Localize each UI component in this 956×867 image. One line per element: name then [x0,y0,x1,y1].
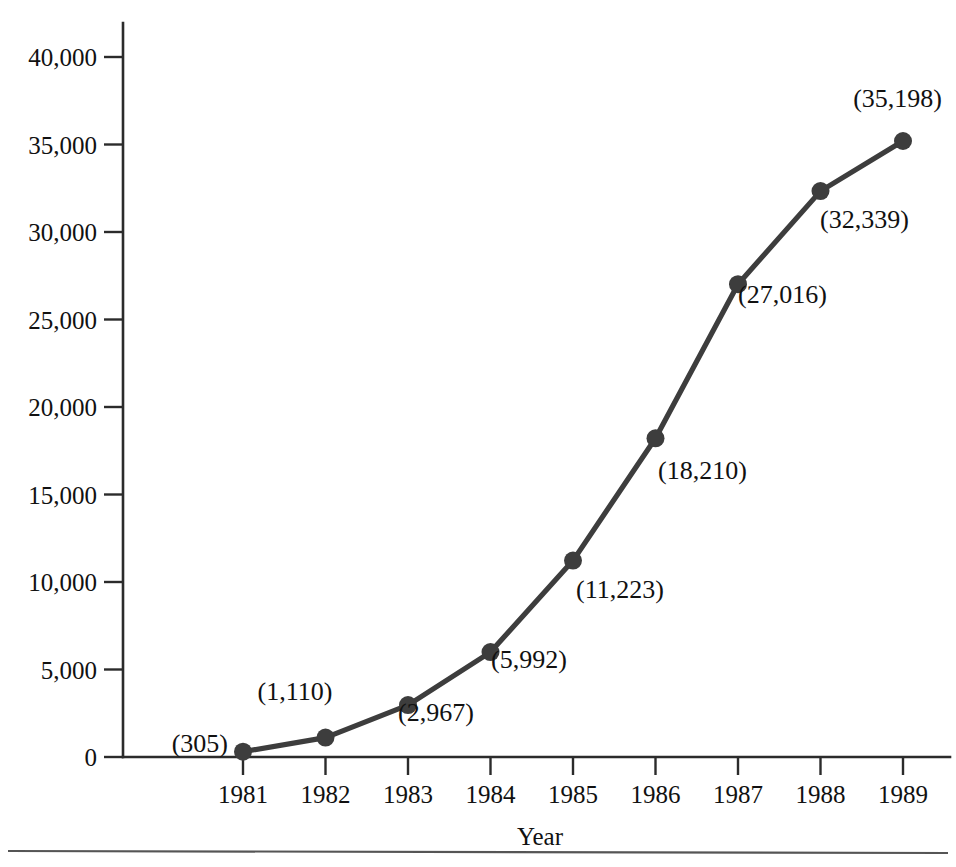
data-label-1983: (2,967) [398,698,474,727]
y-tick-label-30000: 30,000 [28,219,97,246]
y-tick-label-35000: 35,000 [28,132,97,159]
data-point-1988[interactable] [812,182,830,200]
line-chart: 40,000 35,000 30,000 25,000 20,000 15,00… [0,0,956,867]
y-axis-group: 40,000 35,000 30,000 25,000 20,000 15,00… [28,23,123,771]
data-series [234,132,912,761]
y-tick-label-15000: 15,000 [28,482,97,509]
x-axis-title: Year [517,823,564,850]
y-tick-label-5000: 5,000 [41,657,97,684]
data-label-1988: (32,339) [820,205,909,234]
data-label-1982: (1,110) [258,677,333,706]
data-point-1985[interactable] [564,552,582,570]
x-tick-label-1981: 1981 [218,781,268,808]
y-axis-ticks [104,57,123,757]
x-tick-label-1986: 1986 [631,781,681,808]
x-axis-tick-labels: 1981 1982 1983 1984 1985 1986 1987 1988 … [218,781,928,808]
data-label-1987: (27,016) [738,280,827,309]
y-tick-label-10000: 10,000 [28,569,97,596]
x-tick-label-1985: 1985 [548,781,598,808]
data-label-1989: (35,198) [853,84,942,113]
x-axis-ticks [243,757,903,775]
data-point-1981[interactable] [234,743,252,761]
x-tick-label-1987: 1987 [713,781,763,808]
data-label-1981: (305) [172,729,228,758]
y-tick-label-20000: 20,000 [28,394,97,421]
data-point-1986[interactable] [647,429,665,447]
data-label-1984: (5,992) [491,645,567,674]
bottom-divider-rule [8,851,948,853]
y-tick-label-40000: 40,000 [28,44,97,71]
series-line-path [243,141,903,752]
data-label-1986: (18,210) [658,456,747,485]
x-tick-label-1988: 1988 [796,781,846,808]
chart-figure: 40,000 35,000 30,000 25,000 20,000 15,00… [0,0,956,867]
x-tick-label-1984: 1984 [466,781,517,808]
x-tick-label-1983: 1983 [383,781,433,808]
y-tick-label-0: 0 [85,744,98,771]
x-tick-label-1982: 1982 [301,781,351,808]
y-axis-tick-labels: 40,000 35,000 30,000 25,000 20,000 15,00… [28,44,97,771]
data-point-1989[interactable] [894,132,912,150]
data-point-1982[interactable] [317,729,335,747]
x-axis-group: 1981 1982 1983 1984 1985 1986 1987 1988 … [123,757,950,850]
y-tick-label-25000: 25,000 [28,307,97,334]
data-label-1985: (11,223) [576,575,664,604]
x-tick-label-1989: 1989 [878,781,928,808]
